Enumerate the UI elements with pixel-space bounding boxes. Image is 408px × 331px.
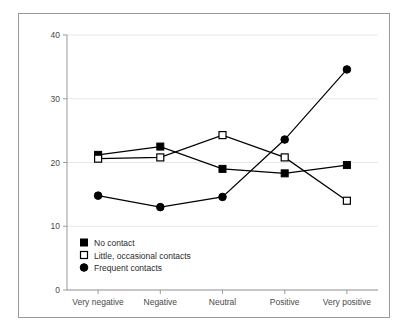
x-tick-label: Positive [270,297,300,307]
x-tick-label: Negative [144,297,178,307]
data-point [157,154,164,161]
x-tick-label: Very negative [72,297,124,307]
data-point [157,203,165,211]
data-point [281,170,288,177]
data-point [281,136,289,144]
data-point [94,192,102,200]
legend-marker [80,264,88,272]
data-point [157,143,164,150]
y-tick-label: 40 [51,30,61,40]
data-point [343,197,350,204]
legend-marker [81,252,88,259]
data-point [281,154,288,161]
legend-marker [81,239,88,246]
y-tick-label: 0 [55,285,60,295]
series-1 [95,143,351,177]
legend-label: Frequent contacts [94,263,162,273]
figure-container: 010203040 Very negativeNegativeNeutralPo… [0,0,408,331]
y-tick-label: 20 [51,158,61,168]
x-tick-label: Neutral [209,297,237,307]
chart-legend: No contactLittle, occasional contactsFre… [80,238,191,273]
line-chart: 010203040 Very negativeNegativeNeutralPo… [0,0,408,331]
data-point [343,66,351,74]
legend-label: No contact [94,238,135,248]
y-tick-label: 30 [51,94,61,104]
data-series-layer [94,66,350,211]
x-axis-ticks: Very negativeNegativeNeutralPositiveVery… [72,290,371,307]
x-tick-label: Very positive [323,297,371,307]
data-point [95,155,102,162]
data-point [219,132,226,139]
legend-label: Little, occasional contacts [94,251,191,261]
data-point [219,193,227,201]
data-point [219,165,226,172]
y-axis-ticks: 010203040 [51,30,67,295]
y-tick-label: 10 [51,221,61,231]
data-point [343,162,350,169]
